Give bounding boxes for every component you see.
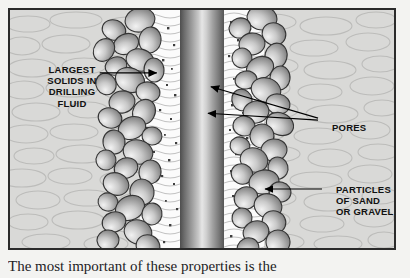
leader-pores-upper — [211, 87, 318, 118]
leader-pores-lower — [208, 113, 318, 120]
figure-caption: The most important of these properties i… — [8, 256, 396, 278]
label-particles-of-sand-or-gravel: PARTICLES OF SAND OR GRAVEL — [336, 184, 394, 218]
label-pores: PORES — [332, 122, 366, 133]
label-largest-solids: LARGEST SOLIDS IN DRILLING FLUID — [37, 64, 107, 109]
figure-drilling-fluid-filter-cake: LARGEST SOLIDS IN DRILLING FLUID PORES P… — [0, 0, 410, 278]
diagram-frame: LARGEST SOLIDS IN DRILLING FLUID PORES P… — [8, 8, 396, 250]
